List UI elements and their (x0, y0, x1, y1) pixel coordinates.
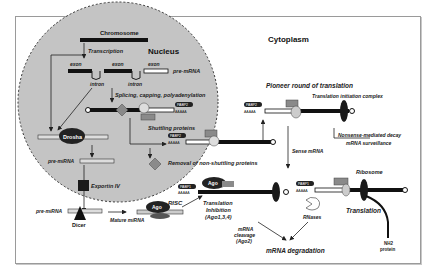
trans-inhib-label-3: (Ago1,3,4) (205, 214, 232, 220)
intron-label-2: intron (128, 81, 142, 87)
splicing-label: Splicing, capping, polyadenylation (115, 92, 206, 98)
exportin-icon (78, 180, 89, 191)
exon-3 (144, 69, 168, 73)
pioneer-cap (350, 109, 355, 114)
protein-label: protein (380, 247, 396, 252)
sense-mrna-label: Sense mRNA (292, 148, 324, 154)
ribosome-label: Ribosome (356, 169, 383, 175)
export-mrna (216, 140, 272, 144)
cleavage-arrow (258, 222, 286, 240)
polya-label-5: AAAAA (296, 189, 308, 193)
cytoplasm-label: Cytoplasm (268, 35, 309, 44)
trans-inhib-label-1: Translation (203, 200, 233, 206)
inhibited-mrna (198, 190, 278, 194)
pioneer-label: Pioneer round of translation (266, 82, 353, 89)
cbc-icon (139, 103, 149, 113)
rnases-label: RNases (303, 214, 322, 220)
tic-label: Translation initiation complex (312, 93, 383, 99)
eif4e-icon (342, 184, 350, 196)
risc-label: RISC (168, 200, 183, 206)
cleavage-label-3: (Ago2) (236, 238, 252, 244)
utr (146, 108, 174, 112)
nascent-protein (366, 196, 388, 238)
pioneer-cbc (291, 106, 301, 118)
pre-mirna-nuclear-label: pre-miRNA (47, 158, 75, 164)
ribosome-stalled-icon (272, 182, 280, 202)
translation-label: Translation (346, 207, 381, 214)
intron-label-1: intron (90, 81, 104, 87)
removal-label: Removal of non-shuttling proteins (168, 160, 258, 166)
surveillance-label: mRNA surveillance (346, 140, 392, 146)
polya-label-4: AAAAA (244, 110, 256, 114)
export-cap (271, 140, 276, 145)
transcription-label: Transcription (88, 48, 124, 54)
inhibit-cap (284, 190, 289, 195)
trans-inhib-label-2: Inhibition (206, 207, 231, 213)
pre-mrna-label: pre-mRNA (172, 68, 200, 74)
protein-block (141, 114, 155, 120)
nucleus-label: Nucleus (148, 47, 180, 56)
exon-2 (104, 69, 132, 73)
shuttling-label: Shuttling proteins (148, 125, 195, 131)
risc-base (150, 213, 170, 219)
pabp1-label: PABP1 (180, 185, 191, 189)
pabp-label-2: PABP2 (170, 134, 181, 138)
pre-mirna-cyto (68, 209, 102, 213)
nh2-label: NH2 (384, 241, 393, 246)
exportin-label: Exportin IV (91, 183, 121, 189)
inhibit-protein-block (222, 181, 234, 187)
exon-1 (68, 69, 92, 73)
pre-mirna-cyto-label: pre-miRNA (35, 208, 63, 214)
pre-mirna-nuclear (80, 159, 114, 163)
rnases-icon (306, 197, 320, 210)
exon-label-3: exon (148, 61, 160, 67)
polya-label-2: AAAAA (168, 141, 180, 145)
mature-mirna-label: Mature miRNA (110, 217, 145, 223)
rnases-arrow (290, 222, 308, 240)
chromosome-label: Chromosome (100, 30, 139, 36)
nmd-label: Nonsense-mediated decay (338, 132, 401, 138)
translation-mrna (347, 188, 403, 192)
polya-label: AAAAA (175, 110, 187, 114)
drosha-label: Drosha (63, 134, 83, 140)
cap-icon (86, 108, 91, 113)
translation-cap (403, 188, 408, 193)
risc-arrow (182, 196, 202, 207)
degradation-label: mRNA degradation (266, 247, 325, 255)
ago-label-2: Ago (208, 180, 218, 186)
dicer-label: Dicer (72, 222, 87, 228)
exon-label-2: exon (112, 61, 124, 67)
tic-ribosome-icon (340, 100, 348, 122)
ribosome-icon (360, 179, 368, 201)
diagram-canvas: Chromosome Nucleus Transcription exon ex… (0, 0, 434, 276)
exon-label-1: exon (70, 61, 82, 67)
polya-label-3: AAAAA (178, 191, 190, 195)
ago-label: Ago (152, 204, 162, 210)
pabp1-label-2: PABP1 (298, 182, 309, 186)
chromosome-bar (80, 38, 148, 42)
cbc-icon-2 (209, 136, 219, 146)
pabp-label-3: PABP2 (246, 103, 257, 107)
pabp-label: PABP2 (177, 103, 188, 107)
